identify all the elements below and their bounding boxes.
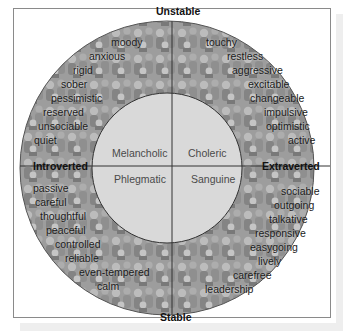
trait-word: sober: [61, 78, 87, 90]
trait-word: moody: [111, 36, 143, 48]
trait-word: careful: [35, 196, 67, 208]
trait-word: passive: [33, 182, 69, 194]
temperament-sanguine: Sanguine: [191, 173, 235, 185]
trait-word: leadership: [205, 283, 253, 295]
trait-word: aggressive: [232, 64, 283, 76]
trait-word: controlled: [55, 238, 101, 250]
axis-label-unstable: Unstable: [156, 5, 200, 17]
trait-word: excitable: [248, 78, 289, 90]
trait-word: optimistic: [266, 120, 310, 132]
trait-word: restless: [227, 50, 263, 62]
trait-word: thoughtful: [40, 210, 86, 222]
axis-label-extraverted: Extraverted: [262, 160, 320, 172]
trait-word: talkative: [269, 213, 308, 225]
trait-word: reserved: [43, 106, 84, 118]
trait-word: easygoing: [250, 241, 298, 253]
trait-word: carefree: [233, 269, 272, 281]
trait-word: pessimistic: [51, 92, 102, 104]
axis-label-introverted: Introverted: [33, 160, 88, 172]
trait-word: lively: [258, 255, 281, 267]
trait-word: reliable: [65, 252, 99, 264]
trait-word: touchy: [206, 36, 237, 48]
trait-word: peaceful: [46, 224, 86, 236]
trait-word: impulsive: [264, 106, 308, 118]
trait-word: even-tempered: [79, 266, 150, 278]
temperament-choleric: Choleric: [188, 147, 227, 159]
trait-word: unsociable: [38, 120, 88, 132]
trait-word: sociable: [281, 185, 320, 197]
trait-word: responsive: [255, 227, 306, 239]
temperament-melancholic: Melancholic: [112, 147, 167, 159]
trait-word: outgoing: [274, 199, 314, 211]
axis-label-stable: Stable: [160, 311, 192, 323]
trait-word: rigid: [73, 64, 93, 76]
trait-word: active: [288, 134, 315, 146]
trait-word: calm: [97, 280, 119, 292]
trait-word: changeable: [250, 92, 304, 104]
temperament-phlegmatic: Phlegmatic: [114, 173, 166, 185]
trait-word: anxious: [89, 50, 125, 62]
inner-circle: [92, 93, 242, 243]
trait-word: quiet: [34, 134, 57, 146]
